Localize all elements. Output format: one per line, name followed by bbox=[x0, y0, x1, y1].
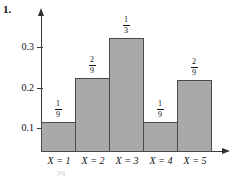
y-tick-mark-0.3 bbox=[37, 47, 43, 48]
figure-page: 1. 0.3 0.2 0.1 1 9 2 9 1 bbox=[0, 0, 231, 179]
bar-value-label-x2: 2 9 bbox=[82, 56, 102, 75]
bar-x1 bbox=[41, 122, 76, 152]
y-tick-label-0.1: 0.1 bbox=[8, 122, 34, 133]
x-axis-arrow-icon bbox=[222, 148, 230, 154]
x-tick-label-1: X = 1 bbox=[41, 155, 77, 166]
bar-value-denominator-x5: 9 bbox=[184, 69, 204, 77]
bar-x2 bbox=[75, 78, 110, 152]
bar-value-label-x5: 2 9 bbox=[184, 58, 204, 77]
bar-x5 bbox=[177, 80, 212, 152]
bar-value-denominator-x1: 9 bbox=[48, 111, 68, 119]
bar-value-label-x3: 1 3 bbox=[116, 16, 136, 35]
bar-value-numerator-x1: 1 bbox=[48, 100, 68, 108]
y-tick-label-0.3: 0.3 bbox=[8, 41, 34, 52]
bar-value-denominator-x4: 9 bbox=[150, 111, 170, 119]
bar-value-label-x4: 1 9 bbox=[150, 100, 170, 119]
bar-value-numerator-x5: 2 bbox=[184, 58, 204, 66]
bar-value-numerator-x2: 2 bbox=[82, 56, 102, 64]
bar-chart: 0.3 0.2 0.1 1 9 2 9 1 3 1 9 bbox=[0, 0, 231, 179]
y-tick-label-0.2: 0.2 bbox=[8, 82, 34, 93]
y-axis-arrow-icon bbox=[38, 8, 44, 16]
bar-value-numerator-x4: 1 bbox=[150, 100, 170, 108]
bar-value-denominator-x3: 3 bbox=[116, 27, 136, 35]
bar-value-denominator-x2: 9 bbox=[82, 67, 102, 75]
bar-value-label-x1: 1 9 bbox=[48, 100, 68, 119]
x-tick-label-2: X = 2 bbox=[75, 155, 111, 166]
bar-x4 bbox=[143, 122, 178, 152]
x-tick-label-4: X = 4 bbox=[143, 155, 179, 166]
bar-x3 bbox=[109, 38, 144, 152]
cropped-page-number-artifact: 29 bbox=[56, 170, 65, 176]
x-tick-label-5: X = 5 bbox=[177, 155, 213, 166]
y-tick-mark-0.2 bbox=[37, 88, 43, 89]
x-tick-label-3: X = 3 bbox=[109, 155, 145, 166]
bar-value-numerator-x3: 1 bbox=[116, 16, 136, 24]
